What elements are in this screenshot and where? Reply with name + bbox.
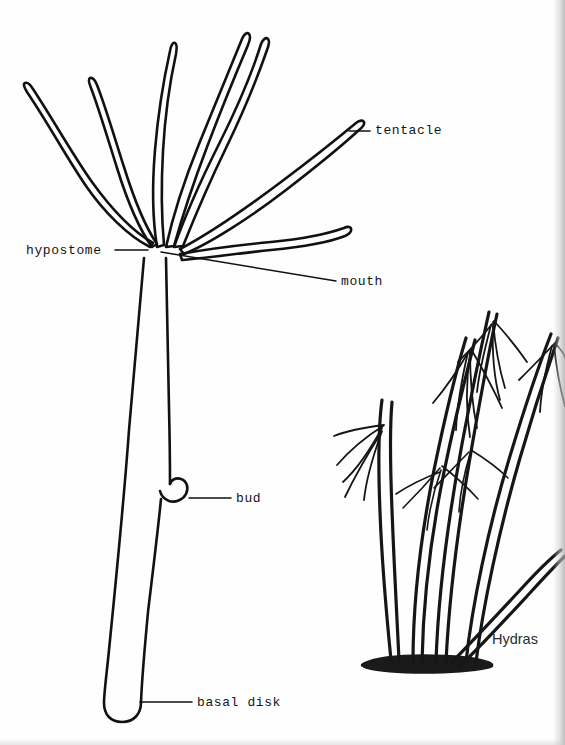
label-mouth: mouth (341, 275, 383, 288)
hydras-group-illustration (334, 312, 565, 673)
body-wall-right-lower (141, 499, 161, 702)
label-bud: bud (236, 492, 261, 505)
hydra-5-stalk-b (460, 556, 565, 666)
hydras-individual-4 (466, 334, 565, 662)
tentacle-outline-1 (24, 83, 153, 247)
label-basal-disk: basal disk (197, 696, 281, 709)
hydras-individual-2 (413, 338, 502, 662)
label-hydras-caption: Hydras (492, 632, 538, 647)
hydra-4-stalk-b (476, 338, 558, 662)
bud-outline (160, 478, 187, 501)
hydra-1-tentacle-crown (334, 425, 384, 500)
body-wall-left (104, 258, 144, 722)
hydras-individual-1 (334, 400, 399, 660)
main-hydra-tentacles (24, 33, 364, 260)
leader-line-mouth (161, 252, 336, 281)
tentacle-outline-2 (89, 78, 157, 247)
label-tentacle: tentacle (375, 124, 442, 137)
label-hypostome: hypostome (26, 244, 102, 257)
body-wall-right (166, 258, 170, 484)
hydra-1-stalk-b (391, 402, 400, 660)
figure-page: hypostome tentacle mouth bud basal disk … (0, 0, 565, 745)
hydras-substrate (362, 655, 493, 673)
hydra-figure-svg (0, 0, 565, 745)
tentacle-outline-5 (174, 38, 269, 247)
main-hydra-body (104, 258, 187, 722)
